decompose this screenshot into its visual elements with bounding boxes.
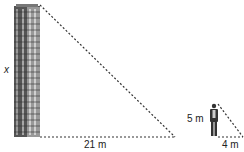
building-shadow-label: 21 m (84, 139, 106, 150)
person-height-label: 5 m (187, 113, 204, 124)
building-height-label: x (4, 64, 9, 75)
person-shadow-triangle (218, 104, 243, 137)
building-icon (14, 4, 40, 137)
building-shadow-triangle (40, 5, 175, 137)
person-icon (210, 104, 218, 136)
diagram-canvas (0, 0, 244, 152)
person-shadow-label: 4 m (222, 139, 239, 150)
